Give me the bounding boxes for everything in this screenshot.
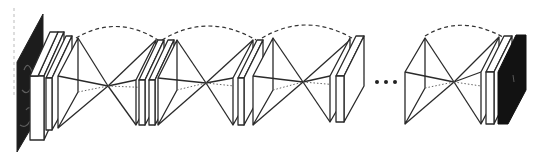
hourglass-network-diagram: [0, 0, 538, 162]
ellipsis-repeated-modules: [375, 80, 397, 84]
intermediate-block-3: [330, 36, 364, 122]
skip-connections: [76, 25, 503, 40]
